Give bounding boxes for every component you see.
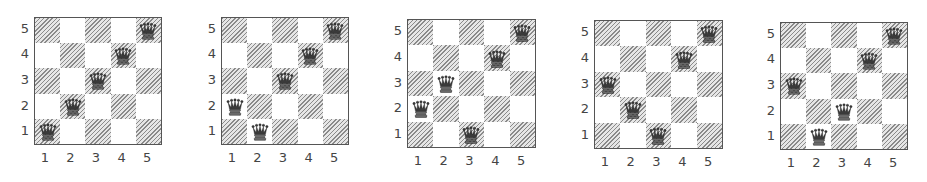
square-c4-r4 — [857, 48, 882, 73]
square-c2-r4 — [806, 48, 831, 73]
square-c4-r5 — [111, 18, 136, 43]
square-c5-r2 — [323, 94, 348, 119]
rank-label: 3 — [18, 72, 32, 87]
square-c5-r2 — [510, 96, 535, 121]
square-c2-r2 — [620, 97, 645, 122]
square-c1-r4 — [35, 43, 60, 68]
square-c5-r5 — [697, 21, 722, 46]
file-label: 1 — [592, 154, 618, 169]
square-c5-r4 — [510, 45, 535, 70]
file-label: 5 — [321, 150, 347, 165]
queen-icon — [275, 72, 295, 92]
square-c4-r3 — [298, 68, 323, 93]
rank-label: 4 — [764, 51, 778, 66]
square-c1-r5 — [408, 20, 433, 45]
file-label: 2 — [431, 153, 457, 168]
queen-icon — [784, 77, 804, 97]
file-label: 5 — [508, 153, 534, 168]
queen-icon — [38, 122, 58, 142]
rank-label: 3 — [391, 75, 405, 90]
rank-label: 1 — [764, 128, 778, 143]
square-c5-r4 — [882, 48, 907, 73]
square-c1-r4 — [222, 43, 247, 68]
square-c2-r1 — [620, 123, 645, 148]
square-c2-r5 — [247, 18, 272, 43]
queen-icon — [649, 126, 669, 146]
square-c2-r3 — [247, 68, 272, 93]
square-c5-r1 — [323, 119, 348, 144]
square-c1-r4 — [781, 48, 806, 73]
square-c4-r1 — [111, 119, 136, 144]
queen-icon — [225, 97, 245, 117]
square-c3-r2 — [272, 94, 297, 119]
square-c3-r4 — [646, 46, 671, 71]
square-c4-r2 — [484, 96, 509, 121]
square-c1-r3 — [222, 68, 247, 93]
square-c3-r1 — [646, 123, 671, 148]
queen-icon — [139, 21, 159, 41]
square-c1-r1 — [35, 119, 60, 144]
square-c2-r5 — [433, 20, 458, 45]
queen-icon — [834, 102, 854, 122]
square-c1-r1 — [408, 122, 433, 147]
square-c4-r4 — [111, 43, 136, 68]
file-label: 1 — [778, 155, 804, 170]
rank-label: 1 — [391, 126, 405, 141]
square-c3-r3 — [272, 68, 297, 93]
queen-icon — [598, 75, 618, 95]
square-c1-r1 — [781, 124, 806, 149]
file-label: 4 — [669, 154, 695, 169]
queen-icon — [411, 99, 431, 119]
square-c1-r2 — [408, 96, 433, 121]
square-c5-r5 — [882, 23, 907, 48]
square-c3-r2 — [646, 97, 671, 122]
square-c4-r5 — [671, 21, 696, 46]
square-c1-r2 — [781, 99, 806, 124]
file-label: 2 — [58, 150, 84, 165]
file-label: 3 — [270, 150, 296, 165]
rank-label: 4 — [205, 46, 219, 61]
square-c5-r5 — [136, 18, 161, 43]
square-c3-r4 — [272, 43, 297, 68]
square-c1-r2 — [595, 97, 620, 122]
square-c4-r5 — [484, 20, 509, 45]
queen-icon — [63, 97, 83, 117]
square-c2-r5 — [806, 23, 831, 48]
file-label: 1 — [405, 153, 431, 168]
rank-label: 2 — [764, 103, 778, 118]
queen-icon — [623, 100, 643, 120]
rank-label: 2 — [205, 98, 219, 113]
queen-icon — [326, 21, 346, 41]
square-c2-r2 — [433, 96, 458, 121]
file-label: 1 — [32, 150, 58, 165]
square-c4-r4 — [298, 43, 323, 68]
square-c5-r1 — [136, 119, 161, 144]
square-c5-r3 — [882, 73, 907, 98]
file-label: 1 — [219, 150, 245, 165]
square-c5-r2 — [882, 99, 907, 124]
file-label: 2 — [245, 150, 271, 165]
square-c2-r4 — [60, 43, 85, 68]
square-c5-r3 — [510, 71, 535, 96]
square-c3-r1 — [272, 119, 297, 144]
queen-icon — [512, 23, 532, 43]
square-c4-r2 — [111, 94, 136, 119]
rank-label: 5 — [578, 24, 592, 39]
square-c3-r5 — [646, 21, 671, 46]
square-c2-r2 — [247, 94, 272, 119]
square-c3-r3 — [85, 68, 110, 93]
square-c1-r1 — [595, 123, 620, 148]
rank-label: 5 — [205, 21, 219, 36]
square-c4-r3 — [857, 73, 882, 98]
queen-icon — [436, 74, 456, 94]
rank-label: 1 — [18, 123, 32, 138]
file-label: 4 — [109, 150, 135, 165]
square-c4-r1 — [857, 124, 882, 149]
square-c3-r1 — [459, 122, 484, 147]
square-c4-r5 — [857, 23, 882, 48]
file-label: 3 — [829, 155, 855, 170]
square-c3-r5 — [459, 20, 484, 45]
square-c2-r2 — [60, 94, 85, 119]
file-label: 5 — [695, 154, 721, 169]
rank-label: 5 — [391, 23, 405, 38]
